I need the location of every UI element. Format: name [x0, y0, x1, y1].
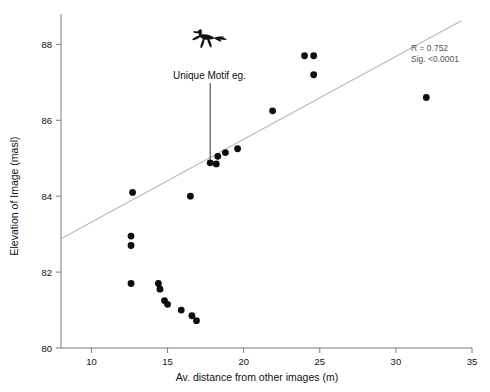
- motif-annotation-group: Unique Motif eg.: [173, 29, 246, 160]
- data-point: [128, 242, 135, 249]
- axes-group: [61, 14, 472, 348]
- data-points-group: [128, 52, 430, 324]
- y-axis-title: Elevation of Image (masl): [8, 136, 20, 255]
- x-tick-label: 20: [238, 356, 249, 367]
- data-point: [213, 161, 220, 168]
- x-axis-ticks: 101520253035: [86, 348, 477, 367]
- x-tick-label: 10: [86, 356, 97, 367]
- data-point: [269, 107, 276, 114]
- data-point: [214, 153, 221, 160]
- data-point: [155, 280, 162, 287]
- x-tick-label: 25: [314, 356, 325, 367]
- data-point: [128, 280, 135, 287]
- data-point: [157, 286, 164, 293]
- y-tick-label: 84: [41, 191, 52, 202]
- plot-canvas: 8082848688 101520253035 Unique Motif eg.…: [0, 0, 490, 392]
- data-point: [423, 94, 430, 101]
- annotation-label-unique-motif: Unique Motif eg.: [173, 70, 246, 81]
- statistics-group: R = 0.752 Sig. <0.0001: [411, 43, 459, 64]
- data-point: [187, 193, 194, 200]
- x-tick-label: 15: [162, 356, 173, 367]
- y-tick-label: 88: [41, 39, 52, 50]
- statistic-r-value: R = 0.752: [411, 43, 448, 53]
- data-point: [222, 149, 229, 156]
- y-axis-ticks: 8082848688: [41, 39, 61, 354]
- x-tick-label: 30: [391, 356, 402, 367]
- y-tick-label: 80: [41, 343, 52, 354]
- data-point: [128, 233, 135, 240]
- data-point: [310, 52, 317, 59]
- data-point: [207, 159, 214, 166]
- data-point: [301, 52, 308, 59]
- x-tick-label: 35: [467, 356, 478, 367]
- x-axis-title: Av. distance from other images (m): [176, 371, 338, 383]
- rock-art-motif-icon: [192, 29, 226, 48]
- data-point: [129, 189, 136, 196]
- fit-line-group: [61, 21, 461, 239]
- regression-line: [61, 21, 461, 239]
- data-point: [310, 71, 317, 78]
- y-tick-label: 86: [41, 115, 52, 126]
- data-point: [164, 301, 171, 308]
- data-point: [178, 307, 185, 314]
- statistic-significance-value: Sig. <0.0001: [411, 54, 459, 64]
- data-point: [193, 317, 200, 324]
- data-point: [234, 145, 241, 152]
- y-tick-label: 82: [41, 267, 52, 278]
- scatter-plot-figure: 8082848688 101520253035 Unique Motif eg.…: [0, 0, 490, 392]
